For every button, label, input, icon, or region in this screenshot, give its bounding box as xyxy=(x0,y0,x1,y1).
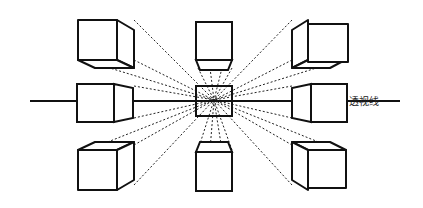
sight-line-label: 透视线 xyxy=(349,93,379,108)
bottom-center-cube xyxy=(196,142,232,191)
bottom-right-cube xyxy=(292,142,346,190)
middle-right-cube xyxy=(292,84,347,122)
top-right-cube xyxy=(292,20,348,68)
bottom-left-cube xyxy=(78,142,134,190)
top-center-cube xyxy=(196,22,232,70)
middle-left-cube xyxy=(77,84,133,122)
top-left-cube xyxy=(78,20,134,68)
